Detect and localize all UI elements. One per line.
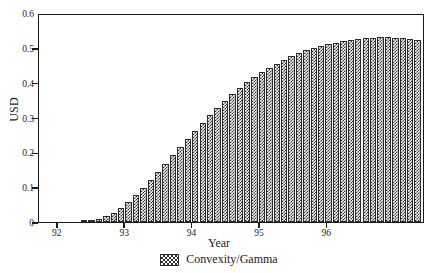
- y-tick-label: 0.5: [0, 44, 34, 54]
- bar: [244, 82, 250, 222]
- y-tick-label: 0.4: [0, 79, 34, 89]
- y-tick-label: 0.3: [0, 114, 34, 124]
- x-tick-mark: [123, 223, 125, 228]
- bar: [355, 39, 361, 222]
- y-tick-label: 0: [0, 218, 34, 228]
- bar: [414, 40, 420, 222]
- bar: [103, 216, 109, 222]
- bar: [118, 208, 124, 222]
- bar: [251, 77, 257, 222]
- x-tick-mark: [326, 223, 328, 228]
- bar: [229, 94, 235, 222]
- bar: [288, 56, 294, 222]
- y-tick-label: 0.6: [0, 9, 34, 19]
- bar: [281, 60, 287, 222]
- x-tick-mark: [191, 223, 193, 228]
- bar: [237, 88, 243, 222]
- bar: [140, 188, 146, 222]
- bar: [111, 213, 117, 222]
- y-tick-mark: [32, 153, 38, 155]
- y-tick-mark: [32, 83, 38, 85]
- bar: [325, 44, 331, 222]
- y-tick-mark: [32, 187, 38, 189]
- bar: [148, 180, 154, 222]
- bar: [185, 139, 191, 222]
- bar: [88, 220, 94, 222]
- bar: [214, 108, 220, 222]
- bar: [377, 37, 383, 222]
- plot-area: [38, 14, 424, 223]
- legend-entry-label: Convexity/Gamma: [186, 252, 277, 267]
- bar: [81, 220, 87, 222]
- x-tick-mark: [56, 223, 58, 228]
- bar: [303, 50, 309, 222]
- x-axis-title: Year: [0, 236, 438, 251]
- y-tick-mark: [32, 222, 38, 224]
- bar: [170, 155, 176, 222]
- bar: [311, 48, 317, 222]
- bar: [370, 38, 376, 222]
- bar: [385, 37, 391, 222]
- bar: [407, 39, 413, 222]
- y-tick-label: 0.1: [0, 183, 34, 193]
- bar: [192, 131, 198, 222]
- y-tick-mark: [32, 118, 38, 120]
- bar-series-convexity-gamma: [39, 15, 423, 222]
- bar: [296, 53, 302, 222]
- x-tick-mark: [258, 223, 260, 228]
- bar: [274, 64, 280, 222]
- bar: [348, 40, 354, 222]
- chart-figure: USD 0.60.50.40.30.20.10 9293949596 Year …: [0, 0, 438, 273]
- bar: [125, 202, 131, 222]
- bar: [96, 219, 102, 222]
- bar: [259, 72, 265, 222]
- y-tick-mark: [32, 48, 38, 50]
- bar: [155, 172, 161, 222]
- bar: [333, 43, 339, 222]
- bar: [392, 38, 398, 222]
- bar: [133, 195, 139, 222]
- bar: [222, 101, 228, 222]
- legend-swatch-icon: [160, 254, 179, 266]
- bar: [400, 38, 406, 222]
- bar: [207, 115, 213, 222]
- bar: [318, 46, 324, 222]
- bar: [340, 41, 346, 222]
- bar: [266, 68, 272, 222]
- bar: [177, 147, 183, 222]
- y-tick-label: 0.2: [0, 148, 34, 158]
- bar: [363, 38, 369, 222]
- bar: [162, 164, 168, 222]
- chart-legend: Convexity/Gamma: [0, 252, 438, 267]
- bar: [200, 123, 206, 222]
